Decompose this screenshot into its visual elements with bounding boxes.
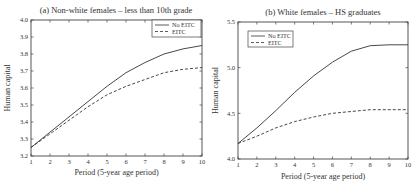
x-tick-label: 9: [387, 161, 390, 168]
y-tick-label: 5.5: [227, 18, 235, 25]
x-tick-label: 8: [369, 161, 372, 168]
chart-panel-a: (a) Non-white females – less than 10th g…: [0, 0, 210, 188]
chart-b-svg: (b) White females – HS graduates12345678…: [210, 0, 418, 188]
x-tick-label: 10: [405, 161, 412, 168]
x-tick-label: 4: [293, 161, 297, 168]
x-axis-label: Period (5-year age period): [281, 172, 366, 181]
plot-frame: [31, 20, 202, 156]
x-tick-label: 7: [350, 161, 354, 168]
y-tick-label: 4.0: [227, 155, 235, 162]
y-tick-label: 3.6: [20, 84, 29, 91]
legend: No EITCEITC: [248, 31, 293, 47]
x-tick-label: 5: [312, 161, 315, 168]
y-tick-label: 3.9: [20, 33, 28, 40]
x-tick-label: 8: [162, 158, 165, 165]
y-axis-label: Human capital: [3, 64, 12, 112]
y-tick-label: 3.5: [20, 101, 28, 108]
chart-title: (b) White females – HS graduates: [265, 7, 380, 17]
y-tick-label: 3.7: [20, 67, 29, 74]
x-tick-label: 5: [105, 158, 108, 165]
no-eitc-line: [31, 46, 202, 148]
x-tick-label: 2: [255, 161, 258, 168]
y-tick-label: 3.2: [20, 152, 28, 159]
x-tick-label: 6: [331, 161, 335, 168]
x-tick-label: 1: [236, 161, 239, 168]
x-tick-label: 2: [48, 158, 51, 165]
y-tick-label: 3.4: [20, 118, 29, 125]
legend-label: EITC: [268, 39, 282, 46]
legend: No EITCEITC: [152, 20, 201, 37]
chart-title: (a) Non-white females – less than 10th g…: [40, 5, 193, 15]
x-tick-label: 4: [86, 158, 90, 165]
x-tick-label: 1: [29, 158, 32, 165]
y-tick-label: 5.0: [227, 64, 235, 71]
x-axis-label: Period (5-year age period): [74, 168, 159, 177]
legend-label: EITC: [172, 28, 186, 35]
y-tick-label: 3.3: [20, 135, 28, 142]
x-tick-label: 6: [124, 158, 128, 165]
y-tick-label: 3.8: [20, 50, 28, 57]
x-tick-label: 3: [274, 161, 277, 168]
x-tick-label: 10: [199, 158, 206, 165]
y-tick-label: 4.0: [20, 16, 28, 23]
chart-a-svg: (a) Non-white females – less than 10th g…: [0, 0, 210, 188]
x-tick-label: 3: [67, 158, 70, 165]
x-tick-label: 7: [143, 158, 147, 165]
eitc-line: [238, 110, 408, 144]
x-tick-label: 9: [181, 158, 184, 165]
y-tick-label: 4.5: [227, 110, 235, 117]
y-axis-label: Human capital: [211, 66, 220, 114]
no-eitc-line: [238, 45, 408, 144]
chart-panel-b: (b) White females – HS graduates12345678…: [210, 0, 418, 188]
